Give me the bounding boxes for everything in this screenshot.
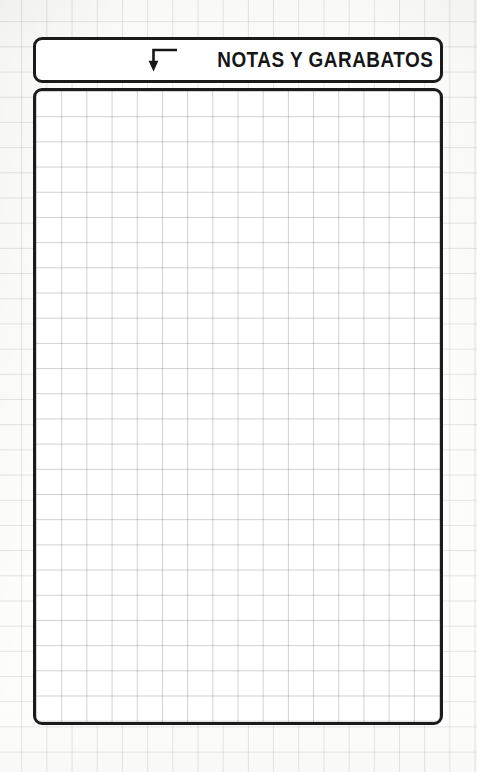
notebook-page: NOTAS Y GARABATOS <box>0 0 477 772</box>
page-title: NOTAS Y GARABATOS <box>217 49 433 72</box>
notes-writing-area[interactable] <box>36 91 440 722</box>
notes-grid-box[interactable] <box>33 88 443 725</box>
arrow-elbow-down-icon <box>143 46 177 74</box>
header-content: NOTAS Y GARABATOS <box>36 40 440 80</box>
header-box: NOTAS Y GARABATOS <box>33 37 443 83</box>
